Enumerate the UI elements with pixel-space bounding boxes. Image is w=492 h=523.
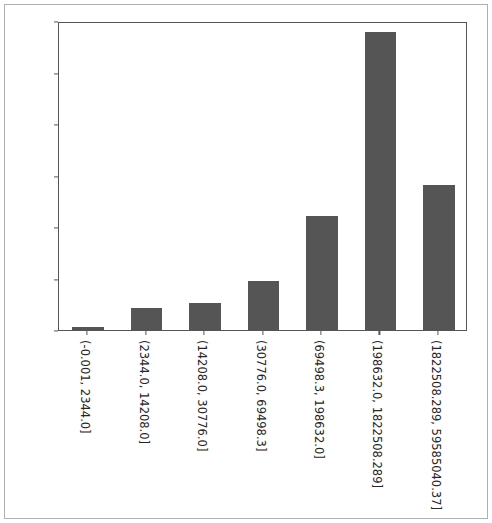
x-tick-mark [262, 331, 263, 335]
chart-figure: 0.0000.0010.0020.0030.0040.0050.006 (-0.… [0, 0, 492, 523]
x-tick-label: (30776.0, 69498.3] [254, 340, 268, 451]
x-tick-mark [379, 331, 380, 335]
x-tick-label: (198632.0, 1822508.289] [370, 340, 384, 488]
x-tick-mark [320, 331, 321, 335]
x-tick-label: (1822508.289, 59585040.37] [429, 340, 443, 510]
x-tick-label: (2344.0, 14208.0] [137, 340, 151, 444]
x-tick-label: (14208.0, 30776.0] [195, 340, 209, 451]
x-tick-mark [87, 331, 88, 335]
x-tick-mark [437, 331, 438, 335]
x-tick-mark [203, 331, 204, 335]
x-axis: (-0.001, 2344.0](2344.0, 14208.0](14208.… [0, 0, 492, 523]
x-tick-mark [145, 331, 146, 335]
x-tick-label: (69498.3, 198632.0] [312, 340, 326, 459]
x-tick-label: (-0.001, 2344.0] [78, 340, 92, 434]
